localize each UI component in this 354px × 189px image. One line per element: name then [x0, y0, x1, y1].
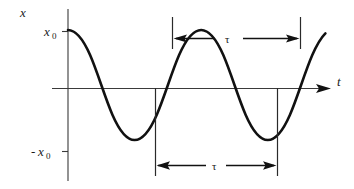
positive-amplitude-main: x: [43, 24, 50, 39]
negative-amplitude-label: - x 0: [31, 144, 51, 161]
waveform-curve: [68, 30, 325, 140]
period-bottom-annotation: τ: [156, 88, 278, 176]
period-bottom-label: τ: [212, 160, 217, 172]
figure-container: x t x 0 - x 0 τ: [0, 0, 354, 189]
positive-amplitude-subscript: 0: [52, 31, 57, 41]
positive-amplitude-label: x 0: [43, 24, 57, 41]
tick-group: [62, 32, 68, 152]
period-top-label: τ: [225, 33, 230, 45]
x-axis-label: t: [337, 74, 341, 89]
negative-amplitude-prefix: -: [31, 144, 35, 159]
negative-amplitude-main: x: [37, 144, 44, 159]
waveform-figure: x t x 0 - x 0 τ: [0, 0, 354, 189]
negative-amplitude-subscript: 0: [46, 151, 51, 161]
y-axis-label: x: [19, 5, 26, 20]
